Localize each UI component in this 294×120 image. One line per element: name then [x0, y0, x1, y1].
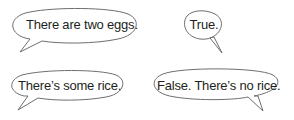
speech-bubble-2-text: True.: [188, 17, 220, 32]
speech-bubble-1-text: There are two eggs.: [26, 17, 126, 32]
speech-bubble-4-text: False. There’s no rice.: [157, 78, 279, 93]
speech-bubble-3-text: There’s some rice.: [18, 78, 118, 93]
